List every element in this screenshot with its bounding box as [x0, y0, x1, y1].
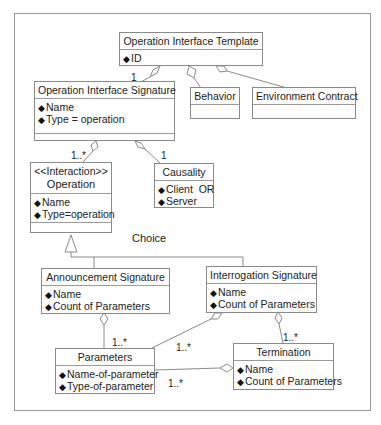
class-operation-interface-signature[interactable]: Operation Interface Signature Name Type …	[34, 81, 175, 141]
class-title: Announcement Signature	[42, 269, 169, 286]
class-attributes: Name Count of Parameters	[234, 361, 333, 389]
attribute-type-of-parameter: Type-of-parameter	[59, 380, 152, 392]
class-attributes: Name Count of Parameters	[42, 286, 169, 314]
class-attributes: Client OR Server	[155, 181, 213, 209]
class-title: Environment Contract	[253, 88, 355, 105]
attribute-name-of-parameter: Name-of-parameter	[59, 368, 152, 380]
multiplicity-label: 1..*	[112, 337, 127, 348]
class-attributes: ID	[120, 50, 262, 66]
class-title: Interrogation Signature	[207, 267, 316, 284]
attribute-count: Count of Parameters	[237, 375, 331, 387]
class-termination[interactable]: Termination Name Count of Parameters	[233, 343, 334, 390]
class-environment-contract[interactable]: Environment Contract	[252, 87, 356, 119]
attribute-type: Type = operation	[38, 113, 172, 125]
class-title: Causality	[155, 164, 213, 181]
class-title: <<Interaction>> Operation	[31, 163, 111, 194]
stereotype: <<Interaction>>	[34, 165, 108, 178]
choice-label: Choice	[132, 232, 166, 244]
multiplicity-label: 1	[161, 150, 167, 161]
class-announcement-signature[interactable]: Announcement Signature Name Count of Par…	[41, 268, 170, 314]
class-operation-interface-template[interactable]: Operation Interface Template ID	[119, 32, 263, 66]
attribute-type: Type=operation	[34, 208, 109, 220]
attribute-count: Count of Parameters	[210, 298, 314, 310]
multiplicity-label: 1..*	[71, 150, 86, 161]
attribute-name: Name	[237, 363, 331, 375]
multiplicity-label: 1..*	[283, 332, 298, 343]
class-title: Parameters	[56, 349, 154, 366]
class-title: Operation Interface Template	[120, 33, 262, 50]
class-title: Termination	[234, 344, 333, 361]
class-title: Behavior	[191, 88, 239, 105]
attribute-count: Count of Parameters	[45, 300, 167, 312]
attribute-server: Server	[158, 195, 211, 207]
class-behavior[interactable]: Behavior	[190, 87, 240, 119]
attribute-id: ID	[123, 52, 260, 64]
multiplicity-label: 1	[131, 72, 137, 83]
attribute-name: Name	[38, 101, 172, 113]
class-parameters[interactable]: Parameters Name-of-parameter Type-of-par…	[55, 348, 155, 394]
class-name: Operation	[34, 178, 108, 191]
multiplicity-label: 1..*	[168, 378, 183, 389]
class-attributes: Name-of-parameter Type-of-parameter	[56, 366, 154, 394]
multiplicity-label: 1..*	[176, 342, 191, 353]
class-title: Operation Interface Signature	[35, 82, 174, 99]
class-causality[interactable]: Causality Client OR Server	[154, 163, 214, 208]
class-interrogation-signature[interactable]: Interrogation Signature Name Count of Pa…	[206, 266, 317, 313]
attribute-name: Name	[45, 288, 167, 300]
attribute-name: Name	[34, 196, 109, 208]
attribute-client: Client OR	[158, 183, 211, 195]
attribute-name: Name	[210, 286, 314, 298]
class-attributes: Name Type = operation	[35, 99, 174, 134]
class-attributes: Name Count of Parameters	[207, 284, 316, 312]
aggregation-diamond	[150, 66, 160, 77]
class-attributes: Name Type=operation	[31, 194, 111, 223]
class-operation[interactable]: <<Interaction>> Operation Name Type=oper…	[30, 162, 112, 233]
